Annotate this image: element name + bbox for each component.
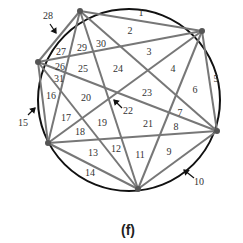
region-label-19: 19: [97, 117, 107, 128]
region-label-25: 25: [78, 63, 88, 74]
region-label-28: 28: [43, 10, 53, 21]
region-label-3: 3: [147, 46, 152, 57]
region-label-23: 23: [142, 87, 152, 98]
region-label-16: 16: [46, 90, 56, 101]
region-label-4: 4: [171, 63, 176, 74]
region-label-22: 22: [123, 105, 133, 116]
vertex-B: [199, 28, 205, 34]
vertex-A: [77, 8, 83, 14]
region-label-21: 21: [143, 118, 153, 129]
region-label-30: 30: [96, 38, 106, 49]
region-label-11: 11: [135, 149, 145, 160]
region-label-17: 17: [61, 112, 71, 123]
region-label-15: 15: [18, 117, 28, 128]
region-label-27: 27: [56, 46, 66, 57]
region-label-31: 31: [54, 73, 64, 84]
region-label-1: 1: [139, 7, 144, 18]
region-label-6: 6: [193, 84, 198, 95]
arrowhead-28: [52, 28, 56, 33]
vertex-F: [35, 59, 41, 65]
region-label-9: 9: [167, 146, 172, 157]
region-label-8: 8: [174, 121, 179, 132]
region-label-10: 10: [194, 176, 204, 187]
vertex-D: [135, 186, 141, 192]
region-label-29: 29: [77, 42, 87, 53]
region-label-7: 7: [178, 107, 183, 118]
region-label-2: 2: [128, 25, 133, 36]
region-label-24: 24: [113, 63, 123, 74]
vertex-C: [214, 128, 220, 134]
region-label-14: 14: [85, 167, 95, 178]
region-label-26: 26: [55, 61, 65, 72]
chord-CE: [48, 131, 217, 143]
region-label-13: 13: [88, 147, 98, 158]
region-label-12: 12: [111, 143, 121, 154]
diagram: 1234567891011121314151617181920212223242…: [0, 0, 243, 243]
region-label-5: 5: [214, 73, 219, 84]
vertex-E: [45, 140, 51, 146]
region-label-18: 18: [75, 126, 85, 137]
figure-caption: (f): [121, 222, 135, 238]
region-label-20: 20: [81, 92, 91, 103]
